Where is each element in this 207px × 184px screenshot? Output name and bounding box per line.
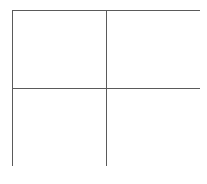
grid-cell-top-left	[13, 11, 107, 89]
grid-cell-bottom-left	[13, 89, 107, 166]
grid-cell-top-right	[107, 11, 200, 89]
two-by-two-grid	[12, 10, 200, 166]
grid-cell-bottom-right	[107, 89, 200, 166]
